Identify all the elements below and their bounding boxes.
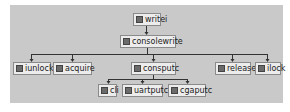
function-icon [56, 65, 63, 72]
node-release[interactable]: release [215, 62, 251, 75]
node-cli[interactable]: cli [98, 84, 117, 97]
function-icon [171, 87, 178, 94]
function-icon [101, 87, 108, 94]
function-icon [218, 65, 225, 72]
node-acquire[interactable]: acquire [53, 62, 92, 75]
node-consolewrite[interactable]: consolewrite [120, 35, 176, 48]
function-icon [258, 65, 265, 72]
node-ilock[interactable]: ilock [255, 62, 281, 75]
function-icon [123, 38, 130, 45]
node-iunlock[interactable]: iunlock [13, 62, 51, 75]
node-cgaputc[interactable]: cgaputc [168, 84, 206, 97]
node-consputc[interactable]: consputc [131, 62, 176, 75]
function-icon [134, 65, 141, 72]
node-writei[interactable]: writei [133, 13, 161, 26]
node-uartputc[interactable]: uartputc [122, 84, 163, 97]
function-icon [16, 65, 23, 72]
function-icon [136, 16, 143, 23]
function-icon [125, 87, 132, 94]
